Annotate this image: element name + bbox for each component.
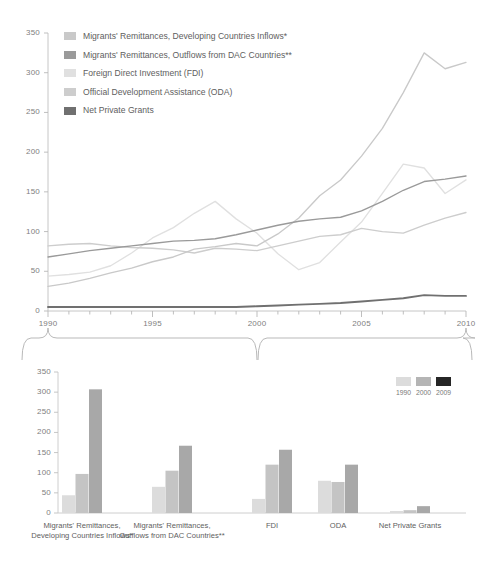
brace-connector	[258, 328, 475, 360]
bar-y-axis-tick-label: 200	[25, 427, 51, 436]
figure-root: Migrants' Remittances, Developing Countr…	[0, 0, 486, 564]
legend-swatch-oda	[64, 88, 76, 96]
legend-year-label: 1990	[396, 389, 411, 396]
bar-0-0	[62, 495, 75, 513]
bar-1-0	[152, 487, 165, 513]
legend-swatch-2009	[436, 377, 451, 386]
line-chart-legend: Migrants' Remittances, Developing Countr…	[64, 27, 324, 120]
y-axis-tick-label: 100	[14, 227, 40, 236]
line-series-4	[48, 295, 466, 307]
y-axis-tick-label: 250	[14, 107, 40, 116]
y-axis-tick-label: 300	[14, 68, 40, 77]
legend-swatch-net-private-grants	[64, 107, 76, 115]
legend-label: Net Private Grants	[83, 106, 154, 115]
line-series-2	[48, 164, 466, 276]
bar-y-axis-tick-label: 300	[25, 387, 51, 396]
x-axis-tick-label: 2000	[243, 319, 271, 328]
bar-3-2	[345, 465, 358, 513]
legend-year-label: 2009	[436, 389, 451, 396]
bar-0-2	[89, 389, 102, 513]
legend-label: Foreign Direct Investment (FDI)	[83, 69, 203, 78]
legend-label: Migrants' Remittances, Developing Countr…	[83, 32, 287, 41]
bar-1-2	[179, 446, 192, 513]
legend-year-label: 2000	[416, 389, 431, 396]
bar-4-0	[390, 511, 403, 513]
line-series-1	[48, 176, 466, 257]
legend-item: Foreign Direct Investment (FDI)	[64, 64, 324, 83]
bar-3-1	[332, 482, 345, 513]
legend-item: Official Development Assistance (ODA)	[64, 83, 324, 102]
x-axis-tick-label: 1990	[34, 319, 62, 328]
bar-4-2	[417, 506, 430, 513]
bar-category-label-line: Outflows from DAC Countries**	[92, 531, 252, 541]
bar-4-1	[404, 510, 417, 513]
bar-category-label: Net Private Grants	[330, 521, 486, 531]
bar-2-1	[266, 465, 279, 513]
y-axis-tick-label: 50	[14, 266, 40, 275]
bar-2-2	[279, 450, 292, 513]
y-axis-tick-label: 0	[14, 306, 40, 315]
bar-category-label-line: Net Private Grants	[330, 521, 486, 531]
y-axis-tick-label: 200	[14, 147, 40, 156]
legend-item: Migrants' Remittances, Outflows from DAC…	[64, 46, 324, 65]
legend-swatch-1990	[396, 377, 411, 386]
bar-y-axis-tick-label: 50	[25, 488, 51, 497]
bar-y-axis-tick-label: 250	[25, 407, 51, 416]
bar-3-0	[318, 481, 331, 513]
legend-label: Official Development Assistance (ODA)	[83, 88, 232, 97]
bar-y-axis-tick-label: 350	[25, 367, 51, 376]
bar-y-axis-tick-label: 150	[25, 448, 51, 457]
bar-chart-legend: 1990 2000 2009	[396, 377, 460, 396]
bar-y-axis-tick-label: 0	[25, 508, 51, 517]
x-axis-tick-label: 2010	[452, 319, 480, 328]
legend-item: Net Private Grants	[64, 101, 324, 120]
bar-1-1	[166, 471, 179, 513]
brace-connector	[22, 328, 257, 360]
bar-0-1	[76, 474, 89, 513]
y-axis-tick-label: 350	[14, 28, 40, 37]
bar-y-axis-tick-label: 100	[25, 468, 51, 477]
legend-item: Migrants' Remittances, Developing Countr…	[64, 27, 324, 46]
legend-swatch-remittances-outflows	[64, 51, 76, 59]
legend-swatch-2000	[416, 377, 431, 386]
bar-2-0	[252, 499, 265, 513]
x-axis-tick-label: 2005	[348, 319, 376, 328]
legend-label: Migrants' Remittances, Outflows from DAC…	[83, 51, 292, 60]
x-axis-tick-label: 1995	[139, 319, 167, 328]
y-axis-tick-label: 150	[14, 187, 40, 196]
legend-swatch-fdi	[64, 69, 76, 77]
legend-swatch-remittances-inflows	[64, 32, 76, 40]
